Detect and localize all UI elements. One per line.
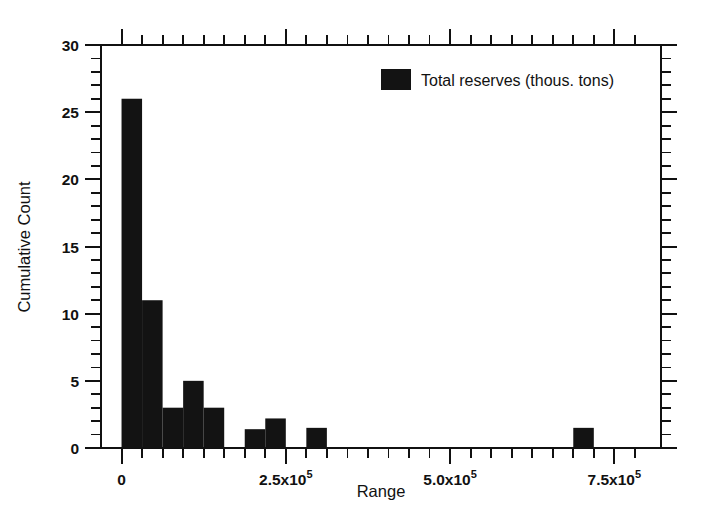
legend-swatch-total-reserves <box>381 69 411 90</box>
legend-label-total-reserves: Total reserves (thous. tons) <box>421 72 614 89</box>
axis-ticks-group <box>85 29 677 464</box>
y-tick-labels: 051015202530 <box>62 37 80 457</box>
histogram-bar <box>306 428 327 448</box>
legend: Total reserves (thous. tons) <box>381 69 614 90</box>
x-tick-label: 2.5x105 <box>259 468 313 488</box>
y-tick-label: 0 <box>70 440 79 457</box>
histogram-chart: 051015202530 02.5x1055.0x1057.5x105 Rang… <box>0 0 710 525</box>
y-axis-title: Cumulative Count <box>15 181 33 313</box>
x-tick-label: 7.5x105 <box>588 468 642 488</box>
y-tick-label: 10 <box>62 306 79 323</box>
histogram-bar <box>573 428 594 448</box>
x-tick-label: 5.0x105 <box>423 468 477 488</box>
bars-group <box>122 99 594 448</box>
y-tick-label: 25 <box>62 104 80 121</box>
histogram-bar <box>163 408 184 448</box>
histogram-bar <box>245 429 266 448</box>
y-tick-label: 5 <box>70 373 79 390</box>
y-tick-label: 15 <box>62 239 80 256</box>
y-tick-label: 30 <box>62 37 79 54</box>
histogram-bar <box>204 408 225 448</box>
x-tick-label: 0 <box>117 471 126 488</box>
histogram-bar <box>265 418 286 448</box>
histogram-bar <box>183 381 204 448</box>
histogram-bar <box>142 300 163 448</box>
y-tick-label: 20 <box>62 171 79 188</box>
x-axis-title: Range <box>357 482 406 500</box>
chart-page: 051015202530 02.5x1055.0x1057.5x105 Rang… <box>0 0 710 525</box>
histogram-bar <box>122 99 143 448</box>
